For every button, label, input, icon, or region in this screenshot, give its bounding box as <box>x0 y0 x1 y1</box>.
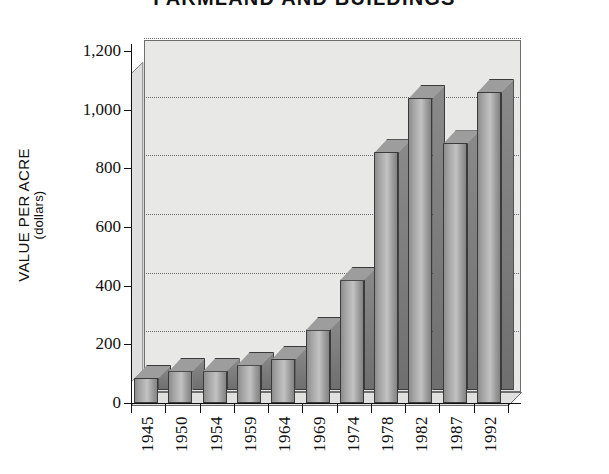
bar-1964[interactable] <box>271 346 308 403</box>
x-tick-mark <box>268 403 269 413</box>
bar-1992[interactable] <box>477 79 514 403</box>
y-tick-mark <box>124 168 131 169</box>
y-axis-title-main: VALUE PER ACRE <box>15 148 32 282</box>
bar-front-face <box>374 152 398 403</box>
x-tick-label-1987: 1987 <box>447 416 467 452</box>
bar-1950[interactable] <box>168 358 205 403</box>
gridline-1000 <box>144 97 521 98</box>
bar-1982[interactable] <box>408 85 445 403</box>
bar-front-face <box>306 330 330 403</box>
x-tick-mark <box>337 403 338 413</box>
y-tick-mark <box>124 403 131 404</box>
gridline-1200 <box>144 38 521 39</box>
plot-area: 02004006008001,0001,200 1945195019541959… <box>131 40 521 403</box>
bar-1987[interactable] <box>443 130 480 403</box>
x-tick-mark <box>234 403 235 413</box>
y-tick-mark <box>124 110 131 111</box>
x-tick-mark <box>302 403 303 413</box>
x-tick-label-1978: 1978 <box>378 416 398 452</box>
x-tick-mark <box>474 403 475 413</box>
x-tick-label-1982: 1982 <box>412 416 432 452</box>
bar-front-face <box>134 378 158 403</box>
bar-1978[interactable] <box>374 139 411 403</box>
y-tick-mark <box>124 344 131 345</box>
x-tick-label-1969: 1969 <box>310 416 330 452</box>
plot-side-wall <box>131 40 145 406</box>
x-tick-mark <box>405 403 406 413</box>
bar-1974[interactable] <box>340 267 377 403</box>
x-tick-mark <box>439 403 440 413</box>
x-tick-label-1954: 1954 <box>207 416 227 452</box>
x-axis-line <box>131 403 521 404</box>
x-tick-mark <box>371 403 372 413</box>
bar-1969[interactable] <box>306 317 343 403</box>
bar-side-face <box>501 79 514 390</box>
x-tick-label-1964: 1964 <box>275 416 295 452</box>
x-tick-mark <box>200 403 201 413</box>
y-tick-label: 0 <box>113 393 122 413</box>
y-tick-label: 1,000 <box>83 100 121 120</box>
y-tick-label: 600 <box>96 217 122 237</box>
y-tick-label: 200 <box>96 334 122 354</box>
bar-front-face <box>443 143 467 403</box>
y-tick-mark <box>124 51 131 52</box>
x-tick-label-1974: 1974 <box>344 416 364 452</box>
y-tick-mark <box>124 286 131 287</box>
y-axis-line <box>131 44 132 403</box>
y-axis-title-units: (dollars) <box>32 148 46 282</box>
y-tick-mark <box>124 227 131 228</box>
bar-1954[interactable] <box>203 358 240 403</box>
bar-front-face <box>271 359 295 403</box>
x-tick-label-1945: 1945 <box>138 416 158 452</box>
y-tick-label: 800 <box>96 158 122 178</box>
y-tick-label: 400 <box>96 276 122 296</box>
bar-front-face <box>408 98 432 403</box>
bar-1959[interactable] <box>237 352 274 403</box>
x-tick-label-1992: 1992 <box>481 416 501 452</box>
bar-front-face <box>477 92 501 403</box>
x-tick-label-1950: 1950 <box>172 416 192 452</box>
x-tick-mark <box>165 403 166 413</box>
bar-1945[interactable] <box>134 365 171 403</box>
chart-title: FARMLAND AND BUILDINGS <box>0 0 609 10</box>
bar-front-face <box>237 365 261 403</box>
x-tick-label-1959: 1959 <box>241 416 261 452</box>
y-axis-title: VALUE PER ACRE (dollars) <box>16 90 46 340</box>
x-tick-mark <box>508 403 509 413</box>
bar-front-face <box>340 280 364 403</box>
bar-front-face <box>168 371 192 403</box>
chart-figure: FARMLAND AND BUILDINGS VALUE PER ACRE (d… <box>0 0 609 474</box>
x-tick-mark <box>131 403 132 413</box>
bar-front-face <box>203 371 227 403</box>
y-tick-label: 1,200 <box>83 41 121 61</box>
